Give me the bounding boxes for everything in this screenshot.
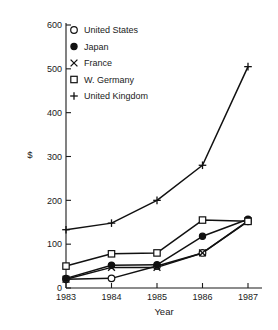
data-point-marker — [63, 263, 69, 269]
data-point-marker — [154, 250, 160, 256]
y-tick-label: 200 — [47, 196, 62, 206]
data-point-marker — [108, 251, 114, 257]
series-line — [66, 220, 248, 266]
data-point-marker — [244, 63, 252, 71]
legend-marker-filled-circle — [71, 43, 77, 49]
data-point-marker — [199, 217, 205, 223]
y-tick-label: 400 — [47, 108, 62, 118]
x-axis-tick-labels: 19831984198519861987 — [56, 292, 258, 302]
x-axis-title: Year — [154, 306, 173, 317]
legend-marker-open-square — [71, 76, 77, 82]
x-tick-label: 1986 — [192, 292, 212, 302]
x-tick-label: 1983 — [56, 292, 76, 302]
legend-marker-open-circle — [71, 27, 78, 34]
y-tick-label: 500 — [47, 64, 62, 74]
x-tick-label: 1985 — [147, 292, 167, 302]
data-point-marker — [108, 219, 116, 227]
y-axis: 0100200300400500600 $ — [27, 20, 71, 293]
y-tick-label: 300 — [47, 152, 62, 162]
y-axis-ticks — [66, 25, 71, 288]
legend-label: France — [84, 58, 112, 68]
x-axis: 19831984198519861987 Year — [56, 283, 262, 317]
y-axis-tick-labels: 0100200300400500600 — [47, 20, 62, 293]
y-axis-title: $ — [27, 149, 33, 160]
chart-canvas: 0100200300400500600 $ 198319841985198619… — [0, 0, 278, 330]
chart-legend: United StatesJapanFranceW. GermanyUnited… — [70, 25, 148, 101]
x-tick-label: 1984 — [101, 292, 121, 302]
data-point-marker — [199, 233, 205, 239]
legend-marker-plus — [70, 92, 78, 100]
line-chart: 0100200300400500600 $ 198319841985198619… — [0, 0, 278, 330]
y-tick-label: 600 — [47, 20, 62, 30]
data-point-marker — [245, 218, 251, 224]
x-tick-label: 1987 — [238, 292, 258, 302]
legend-label: Japan — [84, 42, 109, 52]
x-axis-ticks — [66, 283, 248, 288]
legend-marker-cross-x — [71, 60, 78, 67]
y-tick-label: 100 — [47, 239, 62, 249]
legend-label: United Kingdom — [84, 91, 148, 101]
legend-label: W. Germany — [84, 75, 135, 85]
data-point-marker — [62, 226, 70, 234]
legend-label: United States — [84, 25, 139, 35]
data-point-marker — [108, 275, 115, 282]
